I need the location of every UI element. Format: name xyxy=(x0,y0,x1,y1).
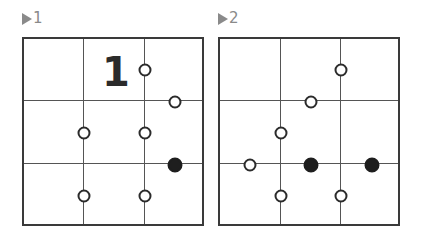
puzzle-label: 2 xyxy=(218,11,239,26)
black-pearl-icon xyxy=(168,158,183,173)
play-triangle-icon xyxy=(218,13,228,25)
puzzle-number: 2 xyxy=(229,11,239,26)
white-pearl-icon xyxy=(169,96,182,109)
white-pearl-icon xyxy=(78,190,91,203)
puzzle-number: 1 xyxy=(33,11,43,26)
puzzle-board[interactable]: 1 xyxy=(22,37,204,226)
white-pearl-icon xyxy=(78,127,91,140)
white-pearl-icon xyxy=(139,190,152,203)
white-pearl-icon xyxy=(139,64,152,77)
play-triangle-icon xyxy=(22,13,32,25)
puzzle-board[interactable] xyxy=(218,37,400,226)
black-pearl-icon xyxy=(304,158,319,173)
white-pearl-icon xyxy=(335,64,348,77)
puzzle-label: 1 xyxy=(22,11,43,26)
number-clue: 1 xyxy=(102,52,130,92)
white-pearl-icon xyxy=(335,190,348,203)
white-pearl-icon xyxy=(139,127,152,140)
black-pearl-icon xyxy=(365,158,380,173)
white-pearl-icon xyxy=(275,127,288,140)
white-pearl-icon xyxy=(244,159,257,172)
white-pearl-icon xyxy=(275,190,288,203)
white-pearl-icon xyxy=(305,96,318,109)
